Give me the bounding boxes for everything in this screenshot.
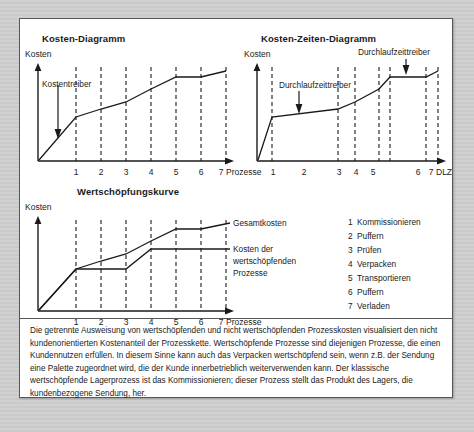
- cost-chart-y-axis: [35, 63, 42, 161]
- cost-chart-xtick-6: 6: [191, 167, 211, 177]
- process-list-name-1: Kommissionieren: [357, 217, 421, 227]
- cost-time-chart-xtick-5: 5: [363, 167, 383, 177]
- process-list-item-6: 6Puffern: [348, 287, 384, 297]
- caption-text: Die getrennte Ausweisung von wertschöpfe…: [30, 325, 442, 401]
- process-list-item-1: 1Kommissionieren: [348, 217, 421, 227]
- process-list-item-7: 7Verladen: [348, 301, 390, 311]
- cost-time-chart-xtick-2: 2: [294, 167, 314, 177]
- value-add-legend-value-added-line2: wertschöpfenden: [233, 256, 296, 266]
- process-list-item-2: 2Puffern: [348, 231, 384, 241]
- value-add-legend-value-added-line1: Kosten der: [233, 244, 273, 254]
- cost-chart-annotation-arrow: [55, 85, 62, 139]
- caption-divider: [20, 318, 452, 319]
- value-add-chart-gridlines: [76, 220, 226, 311]
- cost-chart-xtick-5: 5: [166, 167, 186, 177]
- process-list-item-4: 4Verpacken: [348, 259, 396, 269]
- process-list-item-3: 3Prüfen: [348, 245, 381, 255]
- figure-panel: Kosten-Diagramm Kosten Kost: [19, 18, 453, 398]
- cost-time-chart-annotation-1-label: Durchlaufzeittreiber: [279, 80, 351, 90]
- process-list-name-4: Verpacken: [357, 259, 396, 269]
- process-list-name-6: Puffern: [357, 287, 384, 297]
- cost-chart-xtick-3: 3: [116, 167, 136, 177]
- process-list-name-2: Puffern: [357, 231, 384, 241]
- value-add-legend-total-cost: Gesamtkosten: [233, 218, 287, 228]
- process-list-number-2: 2: [348, 231, 357, 241]
- value-add-legend-value-added-line3: Prozesse: [233, 268, 268, 278]
- cost-chart-title: Kosten-Diagramm: [42, 33, 125, 44]
- cost-chart-x-axis: [38, 158, 234, 165]
- value-add-chart-y-axis: [35, 216, 42, 311]
- process-list-number-4: 4: [348, 259, 357, 269]
- value-add-chart-x-axis: [38, 308, 234, 315]
- cost-chart-y-axis-label: Kosten: [25, 49, 51, 59]
- value-add-chart-y-axis-label: Kosten: [25, 202, 51, 212]
- process-list-name-5: Transportieren: [357, 273, 411, 283]
- cost-chart-xtick-1: 1: [66, 167, 86, 177]
- value-add-chart-plot: [20, 214, 235, 334]
- process-list-number-1: 1: [348, 217, 357, 227]
- cost-time-chart-xtick-1: 1: [263, 167, 283, 177]
- process-list-item-5: 5Transportieren: [348, 273, 411, 283]
- process-list-name-3: Prüfen: [357, 245, 381, 255]
- cost-chart-xtick-4: 4: [141, 167, 161, 177]
- cost-time-chart-y-axis-label: Kosten: [244, 49, 270, 59]
- cost-time-chart-x-axis: [257, 158, 446, 165]
- value-add-chart-title: Wertschöpfungskurve: [77, 186, 179, 197]
- cost-chart-kostentreiber-label: Kostentreiber: [42, 79, 91, 89]
- cost-time-chart-x-axis-label: DLZ: [436, 167, 452, 177]
- cost-time-chart-y-axis: [254, 63, 261, 161]
- cost-time-chart-annotation-arrow-1: [296, 91, 303, 114]
- cost-time-chart-annotation-arrow-2: [403, 59, 410, 75]
- process-list-number-5: 5: [348, 273, 357, 283]
- process-list-number-3: 3: [348, 245, 357, 255]
- process-list-number-6: 6: [348, 287, 357, 297]
- cost-chart-xtick-2: 2: [91, 167, 111, 177]
- cost-time-chart-title: Kosten-Zeiten-Diagramm: [261, 33, 376, 44]
- cost-chart-gridlines: [76, 67, 226, 161]
- process-list-name-7: Verladen: [357, 301, 390, 311]
- process-list-number-7: 7: [348, 301, 357, 311]
- cost-time-chart-annotation-2-label: Durchlaufzeittreiber: [358, 47, 430, 57]
